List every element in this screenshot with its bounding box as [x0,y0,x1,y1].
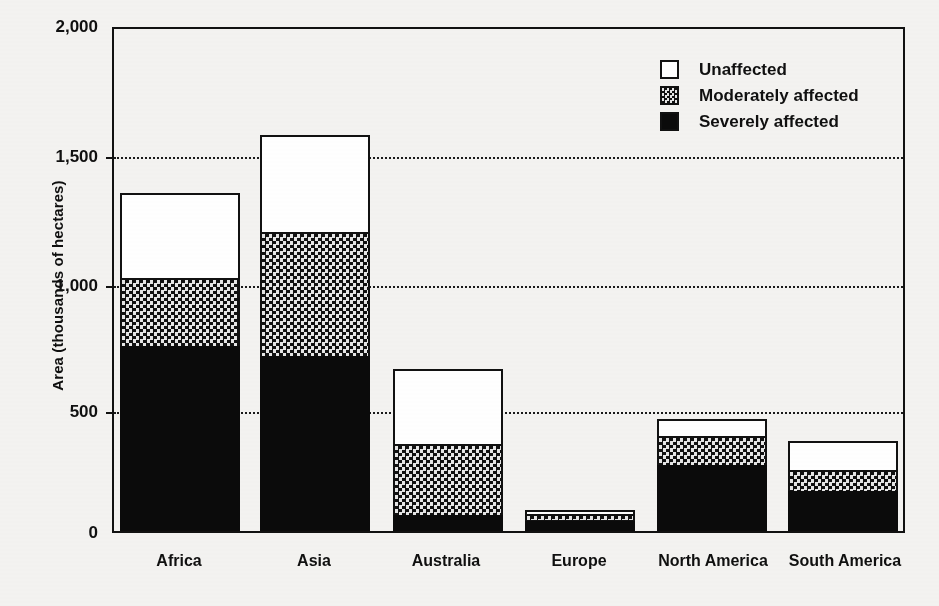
legend-label-severely-affected: Severely affected [699,112,839,132]
y-tick-label-2000: 2,000 [0,17,98,37]
bar-segment-africa-severe [120,346,240,531]
bar-segment-africa-moderate [120,278,240,348]
gridline-1500 [114,157,903,159]
bar-australia [393,369,503,531]
y-axis-title: Area (thousands of hectares) [49,121,66,451]
bar-segment-asia-unaffected [260,135,370,234]
x-tick-label-europe: Europe [551,552,606,570]
x-tick-label-north-america: North America [658,552,768,570]
bar-europe [525,510,635,531]
bar-segment-south-america-unaffected [788,441,898,472]
bar-africa [120,193,240,531]
bar-segment-australia-moderate [393,444,503,517]
bar-segment-africa-unaffected [120,193,240,280]
bar-north-america [657,419,767,531]
bar-segment-australia-severe [393,515,503,531]
bar-segment-south-america-moderate [788,470,898,493]
bar-segment-europe-severe [525,521,635,531]
bar-asia [260,135,370,531]
legend-swatch-unaffected-icon [660,60,679,79]
legend: Unaffected Moderately affected Severely … [660,57,895,135]
legend-label-unaffected: Unaffected [699,60,787,80]
legend-swatch-moderate-icon [660,86,679,105]
bar-segment-asia-moderate [260,232,370,358]
bar-segment-south-america-severe [788,491,898,531]
x-tick-label-australia: Australia [412,552,480,570]
legend-item-unaffected: Unaffected [660,57,895,82]
bar-south-america [788,441,898,531]
bar-segment-asia-severe [260,356,370,531]
x-tick-label-south-america: South America [789,552,901,570]
y-tick-label-0: 0 [0,523,98,543]
legend-swatch-severe-icon [660,112,679,131]
chart-figure: Area (thousands of hectares) 2,000 1,500… [0,0,939,606]
bar-segment-australia-unaffected [393,369,503,446]
bar-segment-north-america-moderate [657,436,767,467]
legend-label-moderately-affected: Moderately affected [699,86,859,106]
bar-segment-north-america-severe [657,465,767,531]
legend-item-severely-affected: Severely affected [660,109,895,134]
x-tick-label-asia: Asia [297,552,331,570]
legend-item-moderately-affected: Moderately affected [660,83,895,108]
x-tick-label-africa: Africa [156,552,201,570]
